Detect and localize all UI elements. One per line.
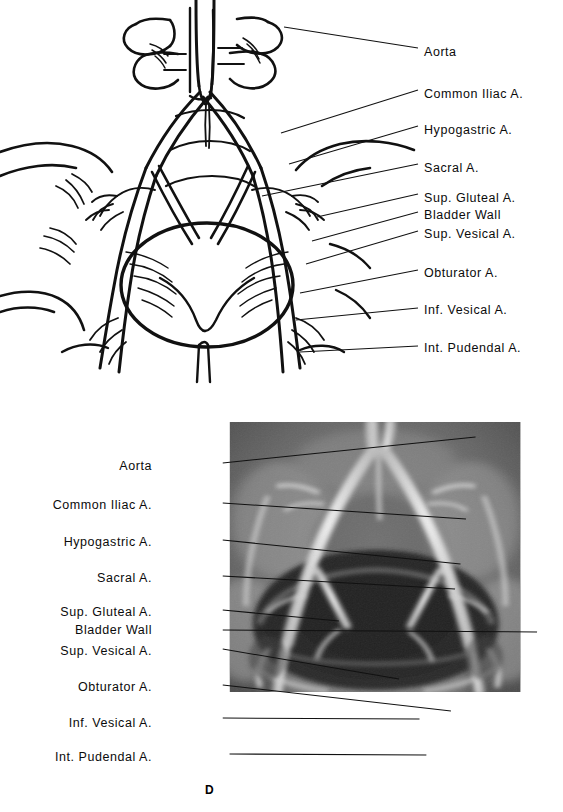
label-sup-gluteal-drawing: Sup. Gluteal A. [424, 192, 516, 205]
label-bladder-wall-drawing: Bladder Wall [424, 209, 501, 222]
label-hypogastric-drawing: Hypogastric A. [424, 124, 512, 137]
label-sup-vesical-drawing: Sup. Vesical A. [424, 228, 516, 241]
figure-pelvic-arteriogram: Aorta Common Iliac A. Hypogastric A. Sac… [0, 0, 563, 812]
label-sup-gluteal-radiograph: Sup. Gluteal A. [60, 606, 152, 619]
label-common-iliac-drawing: Common Iliac A. [424, 88, 523, 101]
label-int-pudendal-radiograph: Int. Pudendal A. [55, 751, 152, 764]
label-inf-vesical-radiograph: Inf. Vesical A. [69, 717, 152, 730]
leader-lines-drawing [262, 27, 418, 352]
label-sup-vesical-radiograph: Sup. Vesical A. [60, 645, 152, 658]
label-sacral-drawing: Sacral A. [424, 162, 479, 175]
label-aorta-radiograph: Aorta [119, 460, 152, 473]
label-common-iliac-radiograph: Common Iliac A. [53, 499, 152, 512]
label-int-pudendal-drawing: Int. Pudendal A. [424, 342, 521, 355]
label-inf-vesical-drawing: Inf. Vesical A. [424, 304, 507, 317]
label-obturator-radiograph: Obturator A. [78, 681, 152, 694]
panel-letter-d: D [205, 783, 214, 797]
panel-line-drawing: Aorta Common Iliac A. Hypogastric A. Sac… [0, 0, 563, 400]
label-bladder-wall-radiograph: Bladder Wall [75, 624, 152, 637]
label-sacral-radiograph: Sacral A. [97, 572, 152, 585]
panel-radiograph: Aorta Common Iliac A. Hypogastric A. Sac… [0, 400, 563, 812]
label-aorta-drawing: Aorta [424, 46, 457, 59]
label-obturator-drawing: Obturator A. [424, 267, 498, 280]
label-hypogastric-radiograph: Hypogastric A. [64, 536, 152, 549]
